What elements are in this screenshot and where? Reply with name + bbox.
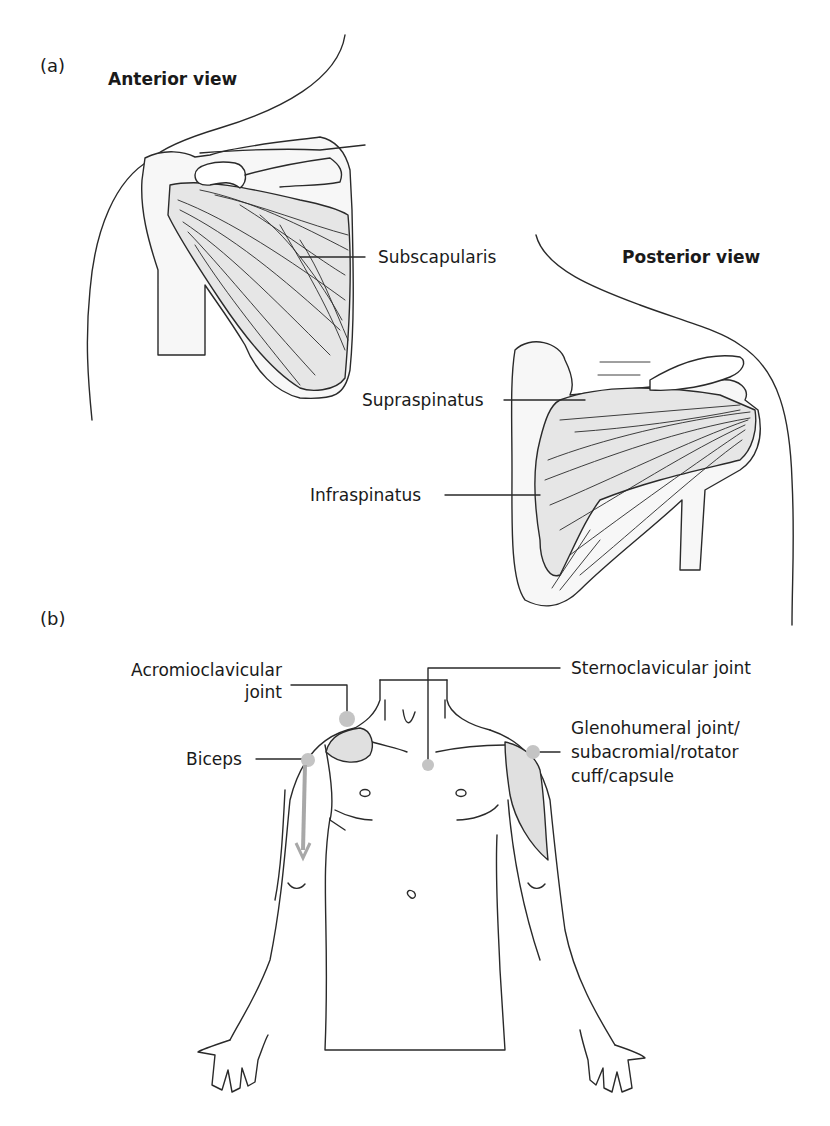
posterior-view-title: Posterior view: [622, 246, 760, 268]
glenohumeral-label-line3: cuff/capsule: [571, 765, 674, 787]
panel-a-label: (a): [40, 55, 65, 77]
biceps-label: Biceps: [186, 748, 242, 770]
anatomy-illustration: [0, 0, 830, 1126]
glenohumeral-marker: [526, 745, 540, 759]
subscapularis-label: Subscapularis: [378, 246, 496, 268]
posterior-shoulder: [445, 235, 793, 625]
glenohumeral-region: [505, 742, 548, 860]
ac-joint-marker: [339, 711, 355, 727]
panel-b-label: (b): [40, 608, 65, 630]
anterior-view-title: Anterior view: [108, 68, 237, 90]
infraspinatus-label: Infraspinatus: [310, 484, 421, 506]
acromioclavicular-label-line1: Acromioclavicular: [110, 659, 282, 681]
glenohumeral-label-line2: subacromial/rotator: [571, 741, 739, 763]
acromioclavicular-region: [326, 728, 372, 762]
anterior-shoulder: [87, 35, 365, 420]
supraspinatus-label: Supraspinatus: [362, 389, 484, 411]
biceps-marker: [301, 753, 315, 767]
biceps-arrow: [303, 765, 305, 850]
glenohumeral-label-line1: Glenohumeral joint/: [571, 717, 740, 739]
sternoclavicular-label: Sternoclavicular joint: [571, 657, 751, 679]
sc-joint-marker: [422, 759, 434, 771]
acromioclavicular-label-line2: joint: [110, 681, 282, 703]
